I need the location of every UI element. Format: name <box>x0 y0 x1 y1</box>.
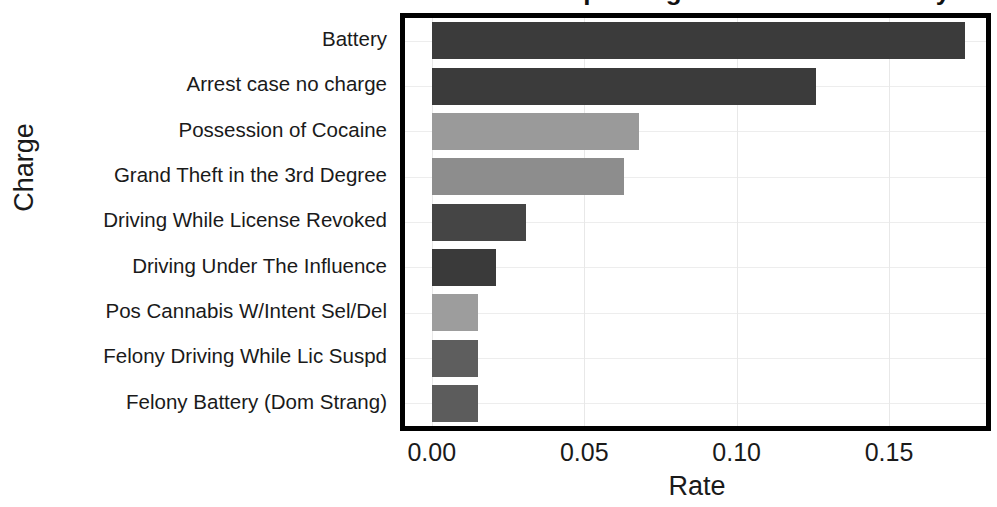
x-axis-tick-label: 0.15 <box>829 438 949 467</box>
x-axis-tick-label: 0.00 <box>372 438 492 467</box>
gridline-horizontal <box>405 403 986 404</box>
y-axis-tick-label: Grand Theft in the 3rd Degree <box>114 152 387 198</box>
y-axis-tick-label: Felony Driving While Lic Suspd <box>103 333 387 379</box>
x-axis-tick-label: 0.05 <box>524 438 644 467</box>
gridline-horizontal <box>405 313 986 314</box>
bar <box>432 249 496 286</box>
bar <box>432 113 639 150</box>
y-axis-tick-label: Driving While License Revoked <box>103 197 387 243</box>
y-axis-tick-label: Arrest case no charge <box>186 61 387 107</box>
bar <box>432 204 526 241</box>
plot-area <box>400 13 991 431</box>
y-axis-tick-label: Possession of Cocaine <box>178 107 387 153</box>
x-axis-tick-labels: 0.000.050.100.15 <box>0 438 997 472</box>
bar <box>432 68 816 105</box>
y-axis-tick-labels: BatteryArrest case no chargePossession o… <box>0 16 396 428</box>
x-axis-tick-label: 0.10 <box>677 438 797 467</box>
gridline-vertical <box>889 18 890 426</box>
chart-title: Rates of Top Charges in Broward County <box>403 0 991 6</box>
x-axis-title: Rate <box>403 471 991 502</box>
bar <box>432 385 478 422</box>
y-axis-tick-label: Driving Under The Influence <box>132 243 387 289</box>
bar-chart-figure: Rates of Top Charges in Broward County C… <box>0 0 997 507</box>
bar <box>432 158 624 195</box>
plot-inner <box>405 18 986 426</box>
gridline-horizontal <box>405 358 986 359</box>
y-axis-tick-label: Battery <box>322 16 387 62</box>
bar <box>432 294 478 331</box>
bar <box>432 340 478 377</box>
y-axis-tick-label: Felony Battery (Dom Strang) <box>126 379 387 425</box>
y-axis-tick-label: Pos Cannabis W/Intent Sel/Del <box>106 288 387 334</box>
bar <box>432 22 965 59</box>
